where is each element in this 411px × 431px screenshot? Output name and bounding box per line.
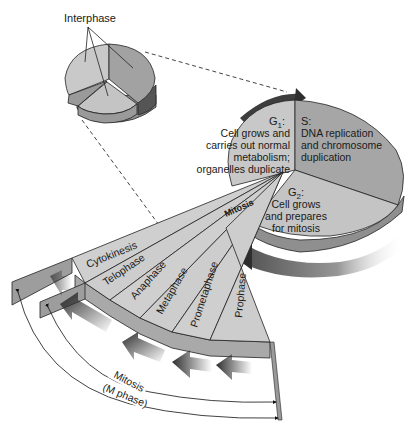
s-line-3: duplication	[301, 151, 351, 163]
prophase-edge	[270, 342, 282, 420]
mitosis-fan: Mitosis Cytokinesis Telophase Anaphase M…	[12, 172, 283, 420]
g2-phase-letter: G	[288, 186, 297, 198]
small-interphase-pie: Interphase	[64, 12, 156, 123]
interphase-label: Interphase	[64, 12, 116, 24]
g1-phase-letter: G	[269, 115, 278, 127]
projection-line-top	[145, 52, 287, 92]
s-line-2: and chromosome	[301, 139, 382, 151]
s-line-1: DNA replication	[301, 127, 374, 139]
g2-line-1: Cell grows	[271, 198, 320, 210]
g1-line-4: organelles duplicate	[197, 163, 291, 175]
g2-line-3: for mitosis	[272, 222, 320, 234]
g1-line-3: metabolism;	[233, 151, 290, 163]
direction-arrow-5	[216, 354, 252, 380]
s-phase-label: S:	[301, 115, 311, 127]
g1-line-1: Cell grows and	[221, 127, 291, 139]
cell-cycle-diagram: Interphase G1: Cell grows and carries ou…	[0, 0, 411, 431]
g1-line-2: carries out normal	[206, 139, 290, 151]
g2-line-2: and prepares	[265, 210, 327, 222]
projection-line-bottom	[82, 120, 170, 240]
